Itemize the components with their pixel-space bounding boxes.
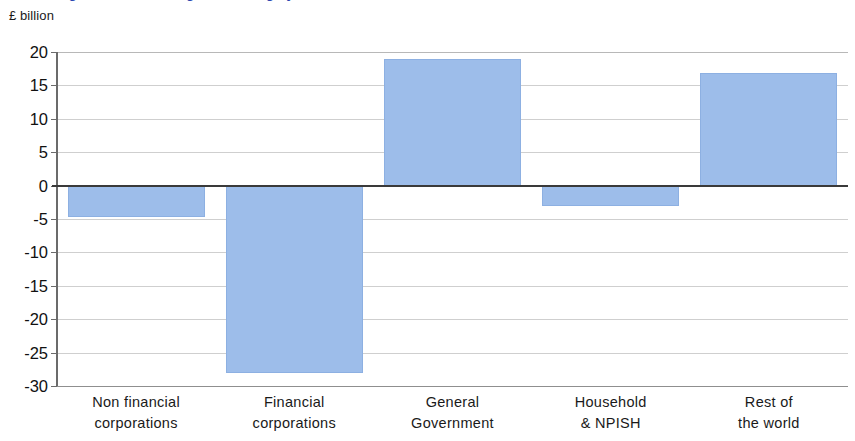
y-axis-tick: [51, 386, 57, 387]
gridline: [57, 52, 848, 53]
category-label-line: Non financial: [57, 392, 215, 413]
category-label-line: Financial: [215, 392, 373, 413]
y-axis-tick-label: 0: [39, 177, 48, 194]
bar: [700, 73, 837, 185]
category-label-line: Household: [532, 392, 690, 413]
gridline: [57, 353, 848, 354]
y-axis-tick-labels: 20151050-5-10-15-20-25-30: [0, 52, 48, 386]
y-axis-tick-label: -30: [24, 378, 48, 395]
figure-title-clipped: Figure 1: Net lending / borrowing by sec…: [0, 0, 855, 7]
category-label-line: corporations: [57, 413, 215, 434]
gridline: [57, 319, 848, 320]
y-axis-unit-label: £ billion: [9, 8, 54, 23]
x-axis-category-label: Rest ofthe world: [690, 392, 848, 434]
plot-area: [57, 52, 848, 386]
figure-title-text: Figure 1: Net lending / borrowing by sec…: [56, 0, 340, 1]
category-label-line: General: [373, 392, 531, 413]
x-axis-category-label: Financialcorporations: [215, 392, 373, 434]
chart-figure: Figure 1: Net lending / borrowing by sec…: [0, 0, 855, 441]
category-label-line: & NPISH: [532, 413, 690, 434]
y-axis-tick-label: -20: [24, 311, 48, 328]
bar: [542, 186, 679, 206]
y-axis-tick-label: 20: [30, 44, 48, 61]
category-label-line: Rest of: [690, 392, 848, 413]
x-axis-category-label: Household& NPISH: [532, 392, 690, 434]
y-axis-tick-label: -15: [24, 278, 48, 295]
x-axis-category-label: GeneralGovernment: [373, 392, 531, 434]
y-axis-tick-label: -5: [33, 211, 48, 228]
gridline: [57, 252, 848, 253]
y-axis-tick-label: -10: [24, 244, 48, 261]
y-axis-tick-label: 5: [39, 144, 48, 161]
gridline: [57, 219, 848, 220]
y-axis-tick-label: -25: [24, 344, 48, 361]
x-axis-category-labels: Non financialcorporationsFinancialcorpor…: [57, 392, 848, 441]
y-axis-tick-label: 15: [30, 77, 48, 94]
x-axis-category-label: Non financialcorporations: [57, 392, 215, 434]
y-axis-line: [56, 52, 58, 386]
bar: [226, 186, 363, 373]
y-axis-tick-label: 10: [30, 111, 48, 128]
category-label-line: corporations: [215, 413, 373, 434]
x-axis-baseline: [57, 386, 848, 387]
bar: [68, 186, 205, 217]
category-label-line: Government: [373, 413, 531, 434]
zero-line: [52, 185, 848, 187]
gridline: [57, 286, 848, 287]
bar: [384, 59, 521, 186]
category-label-line: the world: [690, 413, 848, 434]
